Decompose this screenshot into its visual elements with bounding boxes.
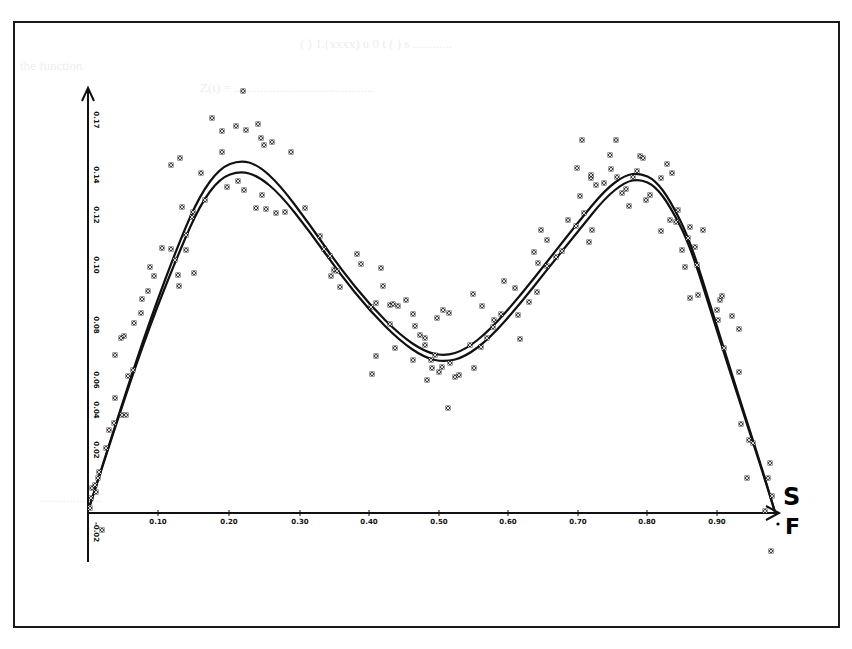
data-point-x-marker	[318, 234, 323, 239]
data-point-x-marker	[210, 116, 215, 121]
data-point-x-marker	[94, 490, 99, 495]
data-point-x-marker	[768, 461, 773, 466]
data-point-x-marker	[260, 193, 265, 198]
data-point-x-marker	[370, 372, 375, 377]
data-point-x-marker	[693, 245, 698, 250]
data-point-x-marker	[173, 258, 178, 263]
data-point-x-marker	[369, 305, 374, 310]
x-label-s: S	[783, 483, 800, 511]
data-point-x-marker	[411, 358, 416, 363]
data-point-x-marker	[425, 378, 430, 383]
data-point-x-marker	[670, 171, 675, 176]
x-tick-label: 0.40	[360, 518, 377, 526]
data-point-x-marker	[435, 316, 440, 321]
data-point-x-marker	[274, 211, 279, 216]
data-point-x-marker	[578, 194, 583, 199]
data-point-x-marker	[680, 248, 685, 253]
data-point-x-marker	[169, 247, 174, 252]
data-point-x-marker	[220, 129, 225, 134]
data-point-x-marker	[430, 366, 435, 371]
data-point-x-marker	[720, 294, 725, 299]
data-point-x-marker	[418, 333, 423, 338]
data-point-x-marker	[374, 301, 379, 306]
data-point-x-marker	[722, 346, 727, 351]
data-point-x-marker	[635, 169, 640, 174]
data-point-x-marker	[89, 496, 94, 501]
fitted-curve	[90, 172, 775, 512]
data-point-x-marker	[264, 207, 269, 212]
data-point-x-marker	[441, 308, 446, 313]
data-point-x-marker	[594, 183, 599, 188]
data-point-x-marker	[132, 321, 137, 326]
data-point-x-marker	[648, 193, 653, 198]
data-point-x-marker	[225, 185, 230, 190]
data-point-x-marker	[624, 187, 629, 192]
data-point-x-marker	[715, 308, 720, 313]
data-point-x-marker	[545, 264, 550, 269]
data-point-x-marker	[644, 198, 649, 203]
data-point-x-marker	[254, 206, 259, 211]
data-point-x-marker	[169, 163, 174, 168]
data-point-x-marker	[190, 215, 195, 220]
data-point-x-marker	[236, 179, 241, 184]
data-point-x-marker	[627, 204, 632, 209]
data-point-x-marker	[203, 198, 208, 203]
data-point-x-marker	[468, 343, 473, 348]
data-point-x-marker	[96, 476, 101, 481]
data-point-x-marker	[683, 265, 688, 270]
data-point-x-marker	[491, 325, 496, 330]
x-tick-label: 0.90	[708, 518, 725, 526]
data-point-x-marker	[192, 271, 197, 276]
data-point-x-marker	[615, 175, 620, 180]
data-point-x-marker	[716, 318, 721, 323]
data-point-x-marker	[191, 210, 196, 215]
data-point-x-marker	[411, 312, 416, 317]
data-point-x-marker	[688, 225, 693, 230]
data-point-x-marker	[631, 175, 636, 180]
data-point-x-marker	[560, 249, 565, 254]
data-point-x-marker	[751, 441, 756, 446]
data-point-x-marker	[180, 205, 185, 210]
data-points	[88, 89, 775, 554]
data-point-x-marker	[396, 304, 401, 309]
data-point-x-marker	[100, 528, 105, 533]
data-point-x-marker	[448, 361, 453, 366]
data-point-x-marker	[359, 262, 364, 267]
data-point-x-marker	[289, 150, 294, 155]
data-point-x-marker	[152, 274, 157, 279]
data-point-x-marker	[545, 238, 550, 243]
y-tick-label: 0.06	[92, 371, 100, 388]
data-point-x-marker	[608, 153, 613, 158]
data-point-x-marker	[688, 296, 693, 301]
data-point-x-marker	[737, 327, 742, 332]
data-point-x-marker	[676, 208, 681, 213]
data-point-x-marker	[139, 311, 144, 316]
data-point-x-marker	[234, 124, 239, 129]
data-point-x-marker	[659, 176, 664, 181]
data-point-x-marker	[374, 354, 379, 359]
data-point-x-marker	[580, 138, 585, 143]
x-tick-label: 0.10	[149, 518, 166, 526]
data-point-x-marker	[574, 224, 579, 229]
data-point-x-marker	[763, 509, 768, 514]
data-point-x-marker	[479, 345, 484, 350]
data-point-x-marker	[492, 318, 497, 323]
x-axis-label: S F	[776, 483, 800, 539]
data-point-x-marker	[472, 366, 477, 371]
data-point-x-marker	[259, 136, 264, 141]
data-point-x-marker	[112, 421, 117, 426]
y-tick-label: 0.08	[92, 316, 100, 333]
data-point-x-marker	[686, 236, 691, 241]
data-point-x-marker	[499, 312, 504, 317]
y-tick-label: 0.12	[92, 206, 100, 223]
data-point-x-marker	[329, 274, 334, 279]
data-point-x-marker	[696, 293, 701, 298]
data-point-x-marker	[355, 252, 360, 257]
data-point-x-marker	[107, 428, 112, 433]
data-point-x-marker	[270, 140, 275, 145]
data-point-x-marker	[184, 233, 189, 238]
data-point-x-marker	[404, 298, 409, 303]
data-point-x-marker	[575, 166, 580, 171]
data-point-x-marker	[303, 206, 308, 211]
data-point-x-marker	[178, 156, 183, 161]
